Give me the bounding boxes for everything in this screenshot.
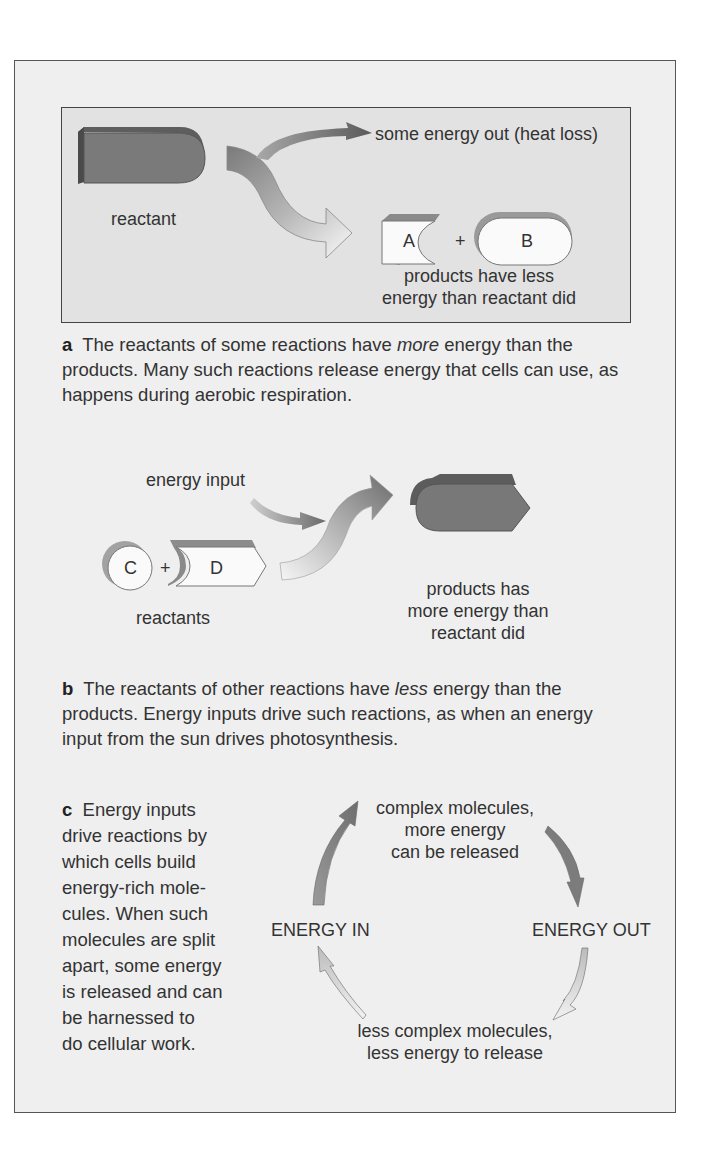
energy-input-label: energy input xyxy=(146,469,245,491)
caption-c-line: be harnessed to xyxy=(62,1005,262,1031)
product-a-label: A xyxy=(403,230,415,252)
caption-c-line: do cellular work. xyxy=(62,1031,262,1057)
plus-sign: + xyxy=(160,557,171,579)
caption-a: a The reactants of some reactions have m… xyxy=(62,332,622,407)
caption-b: b The reactants of other reactions have … xyxy=(62,676,622,751)
heat-loss-label: some energy out (heat loss) xyxy=(375,123,598,145)
caption-letter-c: c xyxy=(62,799,72,820)
caption-c-line: which cells build xyxy=(62,849,262,875)
caption-b-pre: The reactants of other reactions have xyxy=(83,678,395,699)
caption-letter-b: b xyxy=(62,678,73,699)
caption-c-line: Energy inputs xyxy=(83,799,196,820)
less-complex-line-1: less complex molecules, xyxy=(330,1020,580,1042)
heat-loss-arrow-icon xyxy=(256,122,372,160)
caption-c-line: drive reactions by xyxy=(62,823,262,849)
caption-a-emphasis: more xyxy=(397,334,439,355)
caption-c-line: apart, some energy xyxy=(62,953,262,979)
products-description-b: products has more energy than reactant d… xyxy=(390,578,566,644)
energy-flow-arrow-icon xyxy=(280,475,393,580)
caption-b-emphasis: less xyxy=(395,678,428,699)
caption-letter-a: a xyxy=(62,334,72,355)
products-b-line-2: more energy than xyxy=(390,600,566,622)
caption-c-line: energy-rich mole- xyxy=(62,875,262,901)
caption-c-line: is released and can xyxy=(62,979,262,1005)
release-arc-arrow-icon xyxy=(553,948,588,1020)
caption-c: c Energy inputs drive reactions by which… xyxy=(62,797,262,1057)
reactants-label: reactants xyxy=(136,607,210,629)
return-arc-arrow-icon xyxy=(318,946,366,1019)
energy-out-label: ENERGY OUT xyxy=(532,919,651,941)
less-complex-molecules-label: less complex molecules, less energy to r… xyxy=(330,1020,580,1064)
products-b-line-1: products has xyxy=(390,578,566,600)
reactant-c-label: C xyxy=(124,557,137,579)
caption-a-pre: The reactants of some reactions have xyxy=(82,334,397,355)
energy-input-arrow-icon xyxy=(250,498,326,530)
products-b-line-3: reactant did xyxy=(390,622,566,644)
product-block-shape xyxy=(410,474,530,531)
caption-c-line: molecules are split xyxy=(62,927,262,953)
products-line-2: energy than reactant did xyxy=(376,287,582,309)
less-complex-line-2: less energy to release xyxy=(330,1042,580,1064)
energy-flow-arrow-icon xyxy=(227,146,352,258)
reactant-block-shape xyxy=(78,127,205,184)
complex-line-3: can be released xyxy=(350,841,560,863)
energy-in-label: ENERGY IN xyxy=(271,919,370,941)
plus-sign: + xyxy=(455,230,466,252)
reactant-d-label: D xyxy=(210,557,223,579)
complex-molecules-label: complex molecules, more energy can be re… xyxy=(350,797,560,863)
product-b-label: B xyxy=(521,230,533,252)
reactant-label: reactant xyxy=(111,208,176,230)
complex-line-1: complex molecules, xyxy=(350,797,560,819)
complex-line-2: more energy xyxy=(350,819,560,841)
products-line-1: products have less xyxy=(376,265,582,287)
products-description: products have less energy than reactant … xyxy=(376,265,582,309)
caption-c-line: cules. When such xyxy=(62,901,262,927)
